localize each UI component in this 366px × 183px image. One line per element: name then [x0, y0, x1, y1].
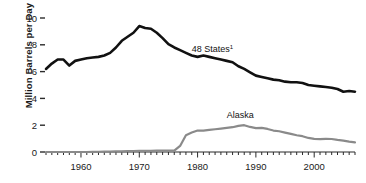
y-tick-label: 6: [32, 66, 37, 77]
series-line-alaska: [46, 125, 355, 152]
y-tick-label: 0: [32, 147, 37, 158]
x-tick-label: 1970: [129, 161, 150, 172]
x-tick-label: 1980: [187, 161, 208, 172]
y-tick-label: 4: [32, 93, 37, 104]
chart-canvas: 0246810 19601970198019902000 48 States1 …: [0, 0, 366, 183]
oil-production-chart: Million Barrels per Day 0246810 19601970…: [0, 0, 366, 183]
x-tick-label: 1960: [70, 161, 91, 172]
y-tick-label: 2: [32, 120, 37, 131]
y-axis-ticks: 0246810: [26, 13, 45, 158]
footnote-marker: 1: [230, 44, 234, 50]
y-tick-label: 8: [32, 39, 37, 50]
y-tick-label: 10: [26, 13, 37, 24]
x-tick-label: 2000: [304, 161, 325, 172]
series-label-48-states: 48 States1: [192, 44, 234, 54]
series-label-alaska: Alaska: [227, 110, 254, 120]
x-axis-ticks: 19601970198019902000: [46, 152, 355, 172]
series-line-48-states: [46, 26, 355, 92]
x-tick-label: 1990: [245, 161, 266, 172]
